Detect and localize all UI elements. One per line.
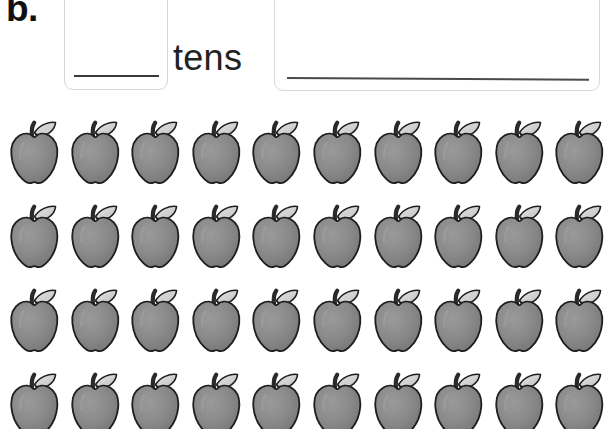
apple-icon <box>129 284 181 356</box>
apple-icon <box>493 116 545 188</box>
apple-icon <box>372 200 424 272</box>
apple-icon <box>432 116 484 188</box>
apple-icon <box>372 116 424 188</box>
apple-icon <box>432 368 484 429</box>
total-answer-box[interactable] <box>274 0 600 91</box>
apple-icon <box>311 284 363 356</box>
apple-row <box>0 280 606 364</box>
apple-icon <box>129 200 181 272</box>
tens-answer-box[interactable] <box>64 0 168 90</box>
problem-label: b. <box>6 0 38 27</box>
apple-icon <box>190 200 242 272</box>
apple-icon <box>432 284 484 356</box>
apple-icon <box>129 116 181 188</box>
apple-row <box>0 364 606 429</box>
apple-icon <box>8 284 60 356</box>
apple-icon <box>69 284 121 356</box>
apple-icon <box>311 116 363 188</box>
apple-icon <box>69 200 121 272</box>
apple-icon <box>372 368 424 429</box>
apple-icon <box>250 368 302 429</box>
apple-icon <box>8 200 60 272</box>
apple-icon <box>553 368 605 429</box>
problem-header: b. tens <box>0 0 606 108</box>
apple-icon <box>69 368 121 429</box>
apple-icon <box>8 368 60 429</box>
apple-icon <box>493 284 545 356</box>
apple-icon <box>250 200 302 272</box>
apple-icon <box>493 368 545 429</box>
apple-icon <box>190 116 242 188</box>
apple-icon <box>250 116 302 188</box>
apple-icon <box>553 284 605 356</box>
tens-answer-line <box>74 75 159 77</box>
apple-icon <box>129 368 181 429</box>
worksheet-page: b. tens <box>0 0 606 429</box>
apple-icon <box>493 200 545 272</box>
apple-icon <box>553 116 605 188</box>
apple-grid <box>0 112 606 429</box>
apple-icon <box>190 368 242 429</box>
tens-label: tens <box>173 40 242 76</box>
apple-icon <box>311 368 363 429</box>
apple-icon <box>432 200 484 272</box>
apple-icon <box>250 284 302 356</box>
apple-icon <box>8 116 60 188</box>
apple-icon <box>553 200 605 272</box>
apple-icon <box>372 284 424 356</box>
apple-icon <box>311 200 363 272</box>
apple-icon <box>190 284 242 356</box>
apple-row <box>0 196 606 280</box>
apple-icon <box>69 116 121 188</box>
total-answer-line <box>287 77 589 81</box>
apple-row <box>0 112 606 196</box>
